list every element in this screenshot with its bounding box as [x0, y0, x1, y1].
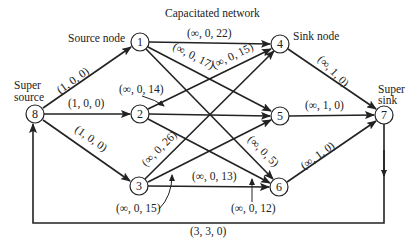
sink-node-label: Sink node: [293, 30, 339, 42]
edge-label-8-1: (1, 0, 0): [54, 65, 91, 97]
svg-text:8: 8: [32, 107, 38, 121]
edge-label-1-5: (∞, 0, 17): [171, 40, 217, 72]
network-diagram: 1 2 3 4 5 6 7 8 Capacitated network Sour…: [0, 0, 414, 251]
edge-label-6-7: (∞, 1, 0): [298, 139, 337, 172]
svg-text:3: 3: [136, 179, 142, 193]
svg-text:7: 7: [381, 108, 387, 122]
diagram-title: Capacitated network: [165, 7, 260, 20]
edge-1-4: [149, 42, 270, 44]
pointer-2-5-label: [142, 96, 164, 106]
node-8: 8: [26, 105, 44, 123]
edge-label-7-8: (3, 3, 0): [190, 225, 227, 238]
svg-text:6: 6: [276, 180, 282, 194]
edge-5-7: [289, 115, 374, 116]
edge-label-1-6: (∞, 0, 5): [245, 133, 282, 170]
edge-label-8-3: (1, 0, 0): [72, 123, 109, 155]
node-1: 1: [131, 33, 149, 51]
edge-label-5-7: (∞, 1, 0): [305, 99, 344, 112]
node-3: 3: [130, 177, 148, 195]
edge-label-3-5: (∞, 0, 15): [116, 202, 161, 215]
edge-label-1-4: (∞, 0, 22): [187, 27, 232, 40]
super-sink-label-2: sink: [378, 94, 397, 106]
edge-label-3-4: (∞, 0, 26): [139, 128, 180, 169]
edge-3-6: [148, 186, 269, 187]
source-node-label: Source node: [68, 32, 125, 44]
edge-label-2-6: (∞, 0, 12): [231, 202, 276, 215]
super-source-label-2: source: [14, 91, 44, 103]
svg-text:4: 4: [277, 37, 283, 51]
edge-label-2-5: (∞, 0, 14): [119, 83, 164, 96]
svg-text:2: 2: [137, 107, 143, 121]
node-7: 7: [375, 106, 393, 124]
pointer-3-5-label: [159, 175, 172, 209]
svg-text:5: 5: [277, 109, 283, 123]
node-5: 5: [271, 107, 289, 125]
node-6: 6: [270, 178, 288, 196]
node-2: 2: [131, 105, 149, 123]
edge-label-8-2: (1, 0, 0): [68, 97, 105, 110]
svg-text:1: 1: [137, 35, 143, 49]
edge-label-3-6: (∞, 0, 13): [192, 170, 237, 183]
node-4: 4: [271, 35, 289, 53]
